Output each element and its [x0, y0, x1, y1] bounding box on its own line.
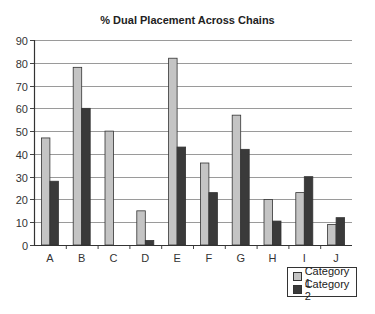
- x-tick-label: C: [110, 252, 118, 264]
- bar-B-1: [73, 67, 82, 245]
- y-tick-label: 10: [16, 217, 28, 229]
- y-tick-label: 60: [16, 103, 28, 115]
- y-tick-label: 80: [16, 58, 28, 70]
- bar-E-1: [169, 58, 178, 245]
- x-tick-label: I: [303, 252, 306, 264]
- legend-swatch-category-1: [293, 272, 302, 281]
- x-tick-label: D: [141, 252, 149, 264]
- bar-B-2: [82, 108, 91, 245]
- legend-item-category-2: Category 2: [293, 283, 356, 296]
- bar-F-1: [200, 163, 209, 245]
- bar-D-1: [137, 211, 146, 245]
- x-tick-label: H: [269, 252, 277, 264]
- y-tick-label: 90: [16, 35, 28, 47]
- x-tick-label: E: [173, 252, 180, 264]
- bar-J-2: [336, 218, 345, 245]
- y-tick-label: 20: [16, 194, 28, 206]
- bar-I-1: [296, 193, 305, 245]
- bar-G-2: [241, 149, 250, 245]
- legend-label: Category 2: [305, 278, 356, 302]
- bar-J-1: [328, 225, 337, 246]
- bar-D-2: [145, 240, 154, 245]
- bar-C-1: [105, 131, 114, 245]
- bar-H-1: [264, 199, 273, 245]
- x-tick-label: A: [46, 252, 54, 264]
- y-tick-label: 40: [16, 149, 28, 161]
- y-tick-label: 70: [16, 81, 28, 93]
- y-tick-label: 30: [16, 172, 28, 184]
- bar-A-2: [50, 181, 59, 245]
- x-tick-label: B: [78, 252, 85, 264]
- x-tick-label: F: [206, 252, 213, 264]
- bar-F-2: [209, 193, 218, 245]
- bar-E-2: [177, 147, 186, 245]
- bar-G-1: [232, 115, 241, 245]
- bar-A-1: [41, 138, 50, 245]
- y-tick-label: 50: [16, 126, 28, 138]
- bar-H-2: [273, 221, 282, 245]
- x-tick-label: G: [236, 252, 245, 264]
- chart-legend: Category 1 Category 2: [287, 267, 357, 297]
- legend-swatch-category-2: [293, 285, 302, 294]
- y-tick-label: 0: [22, 240, 28, 252]
- bar-I-2: [304, 177, 313, 245]
- x-tick-label: J: [333, 252, 339, 264]
